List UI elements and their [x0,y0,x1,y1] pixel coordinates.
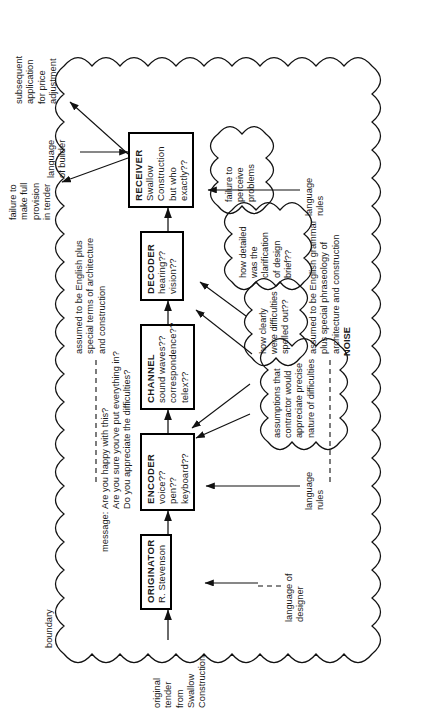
box-receiver[interactable]: RECEIVER Swallow Construction but who ex… [128,132,194,208]
box-channel[interactable]: CHANNEL sound waves?? correspondence?? t… [140,324,195,410]
label-message-line-0: Are you happy with this? [100,408,111,509]
box-encoder-line-2: keyboard?? [179,440,190,504]
label-assumed-builder-language: assumed to be English grammar plus speci… [308,220,342,354]
label-language-of-builder: language of builder [46,140,69,178]
label-original-tender: original tender from Swallow Constructio… [152,656,208,708]
box-originator[interactable]: ORIGINATOR R. Stevenson [140,534,172,610]
box-channel-line-0: sound waves?? [156,331,167,403]
diagram-canvas: ORIGINATOR R. Stevenson ENCODER voice?? … [0,0,432,714]
box-encoder[interactable]: ENCODER voice?? pen?? keyboard?? [140,433,195,511]
box-encoder-line-0: voice?? [156,440,167,504]
diagram-root: ORIGINATOR R. Stevenson ENCODER voice?? … [0,0,432,714]
label-outcome-subsequent: subsequent application for price adjustm… [14,56,59,104]
outcome-arrows [62,102,128,182]
box-receiver-line-2: but who [167,139,178,201]
label-boundary: boundary [44,609,55,648]
label-noise: NOISE [342,327,353,356]
label-language-rules-right: language rules [304,178,327,216]
boundary-cloud [56,58,381,663]
label-message-prefix: message: [100,512,111,552]
box-decoder-line-1: vision?? [167,238,178,294]
noise-text-clarity: how clearly were difficulties spelled ou… [258,291,292,354]
box-channel-line-1: correspondence?? [167,331,178,403]
label-message-line-2: Do you appreciate the difficulties? [122,370,133,509]
box-receiver-line-3: exactly?? [178,139,189,201]
box-decoder-title: DECODER [145,238,156,294]
noise-text-perceive: failure to perceive problems [224,164,258,202]
noise-arrows [192,282,252,438]
label-language-of-designer: language of designer [284,573,307,622]
box-originator-line-0: R. Stevenson [156,541,167,603]
box-originator-title: ORIGINATOR [145,541,156,603]
box-decoder-line-0: hearing?? [156,238,167,294]
noise-text-detail: how detailed was the clarification of de… [238,226,294,278]
box-receiver-line-0: Swallow [144,139,155,201]
box-encoder-title: ENCODER [145,440,156,504]
box-channel-line-2: telex?? [179,331,190,403]
diagram-linework [0,0,432,714]
label-assumed-designer-language: assumed to be English plus special terms… [74,238,108,354]
noise-text-assumptions: assumptions that contractor would apprec… [272,359,317,438]
label-message-line-1: Are you sure you've put everything in? [111,351,122,509]
label-language-rules-left: language rules [304,472,327,510]
box-decoder[interactable]: DECODER hearing?? vision?? [140,231,184,301]
box-receiver-title: RECEIVER [133,139,144,201]
box-receiver-line-1: Construction [155,139,166,201]
box-encoder-line-1: pen?? [167,440,178,504]
box-channel-title: CHANNEL [145,331,156,403]
label-outcome-failure: failure to make full provision in tender [8,183,53,220]
